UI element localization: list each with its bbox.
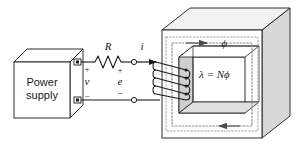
coil-return-1 xyxy=(153,62,156,70)
emf-negative-sign: − xyxy=(117,88,122,98)
source-negative-sign: − xyxy=(84,91,89,101)
emf-positive-sign: + xyxy=(117,65,122,75)
power-supply-label-line2: supply xyxy=(26,89,58,101)
power-supply-label-line1: Power xyxy=(26,76,58,88)
current-label: i xyxy=(140,40,143,52)
diagram-canvas: ϕ λ = Nϕ Power supply xyxy=(0,0,306,152)
coil-return-3 xyxy=(153,78,156,86)
resistor-label: R xyxy=(104,40,112,52)
terminal-positive-pin xyxy=(76,61,79,64)
emf-label: e xyxy=(118,75,123,87)
flux-linkage-label: λ = Nϕ xyxy=(198,68,230,80)
terminal-negative-pin xyxy=(76,99,79,102)
power-supply-box: Power supply xyxy=(14,49,83,118)
flux-label: ϕ xyxy=(221,37,227,49)
source-positive-sign: + xyxy=(84,64,89,74)
core-right-face xyxy=(262,8,290,138)
magnetic-core: ϕ λ = Nϕ xyxy=(162,8,290,138)
node-top xyxy=(131,59,136,64)
core-window-inner-top-wall xyxy=(179,46,259,57)
coil-return-4 xyxy=(153,86,156,94)
node-bottom xyxy=(131,97,136,102)
core-window-inner-bottom-wall xyxy=(179,102,259,113)
coil-return-2 xyxy=(153,70,156,78)
voltage-label: v xyxy=(85,75,90,87)
magnetic-circuit-figure: ϕ λ = Nϕ Power supply xyxy=(0,0,306,152)
